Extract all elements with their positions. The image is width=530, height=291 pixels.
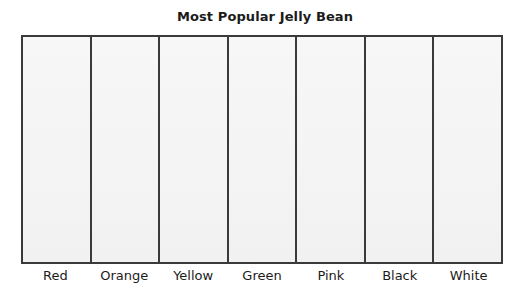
axis-label-red: Red [21,266,90,288]
bar-chart-figure: Most Popular Jelly Bean Red Orange Yello… [0,0,530,291]
axis-label-yellow: Yellow [159,266,228,288]
axis-label-pink: Pink [296,266,365,288]
axis-label-white: White [434,266,503,288]
plot-column-red [23,37,92,262]
plot-area [21,35,503,264]
plot-column-black [366,37,435,262]
plot-column-white [434,37,501,262]
category-axis: Red Orange Yellow Green Pink Black White [21,266,503,288]
axis-label-orange: Orange [90,266,159,288]
chart-title: Most Popular Jelly Bean [0,9,530,25]
plot-column-pink [297,37,366,262]
plot-column-orange [92,37,161,262]
plot-column-yellow [160,37,229,262]
axis-label-green: Green [228,266,297,288]
axis-label-black: Black [365,266,434,288]
plot-column-green [229,37,298,262]
